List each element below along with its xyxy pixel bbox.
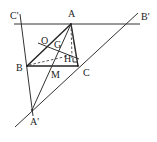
geometry-diagram: A B C M O G H A' B' C' <box>0 0 157 142</box>
median-a-m-a-prime <box>32 24 71 110</box>
label-a-prime: A' <box>30 116 39 127</box>
label-c-prime: C' <box>10 10 19 21</box>
point-b <box>26 65 28 67</box>
label-o: O <box>41 35 48 46</box>
label-c: C <box>83 67 90 78</box>
label-b-prime: B' <box>141 11 150 22</box>
label-a: A <box>68 8 76 19</box>
diagram-canvas: A B C M O G H A' B' C' <box>0 0 157 142</box>
point-a <box>70 23 72 25</box>
label-m: M <box>51 69 60 80</box>
label-h: H <box>64 53 71 64</box>
point-c <box>77 65 79 67</box>
altitude-b <box>29 56 68 65</box>
point-a-prime <box>31 109 33 111</box>
label-b: B <box>16 62 23 73</box>
line-a-prime-b-prime <box>15 13 138 127</box>
label-g: G <box>54 39 61 50</box>
